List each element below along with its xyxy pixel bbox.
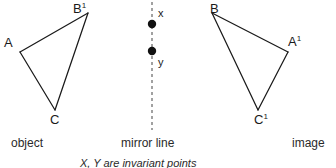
edge-C1-A1 xyxy=(258,52,288,110)
edge-B-C1 xyxy=(212,13,258,110)
edge-A1-B xyxy=(212,13,288,52)
vertex-label-A: A xyxy=(4,36,13,49)
vertex-label-B: B xyxy=(210,2,219,15)
footnote-invariant-points: X, Y are invariant points xyxy=(80,158,196,168)
caption-object: object xyxy=(11,137,43,149)
vertex-label-C-prime: C1 xyxy=(254,113,268,126)
edge-C-A xyxy=(20,52,55,110)
invariant-point-x-marker xyxy=(148,20,156,28)
caption-image: image xyxy=(292,137,325,149)
vertex-label-C: C xyxy=(50,113,59,126)
vertex-label-A-prime: A1 xyxy=(288,35,301,48)
image-triangle xyxy=(212,13,288,110)
invariant-point-label-y: y xyxy=(158,57,164,68)
edge-A-B1 xyxy=(20,13,88,52)
edge-B1-C xyxy=(55,13,88,110)
invariant-point-y-marker xyxy=(148,47,156,55)
vertex-label-B-prime: B1 xyxy=(73,2,86,15)
reflection-diagram: A B1 B A1 C C1 x y object mirror line im… xyxy=(0,0,336,168)
invariant-point-label-x: x xyxy=(158,8,164,19)
object-triangle xyxy=(20,13,88,110)
caption-mirror-line: mirror line xyxy=(121,137,174,149)
